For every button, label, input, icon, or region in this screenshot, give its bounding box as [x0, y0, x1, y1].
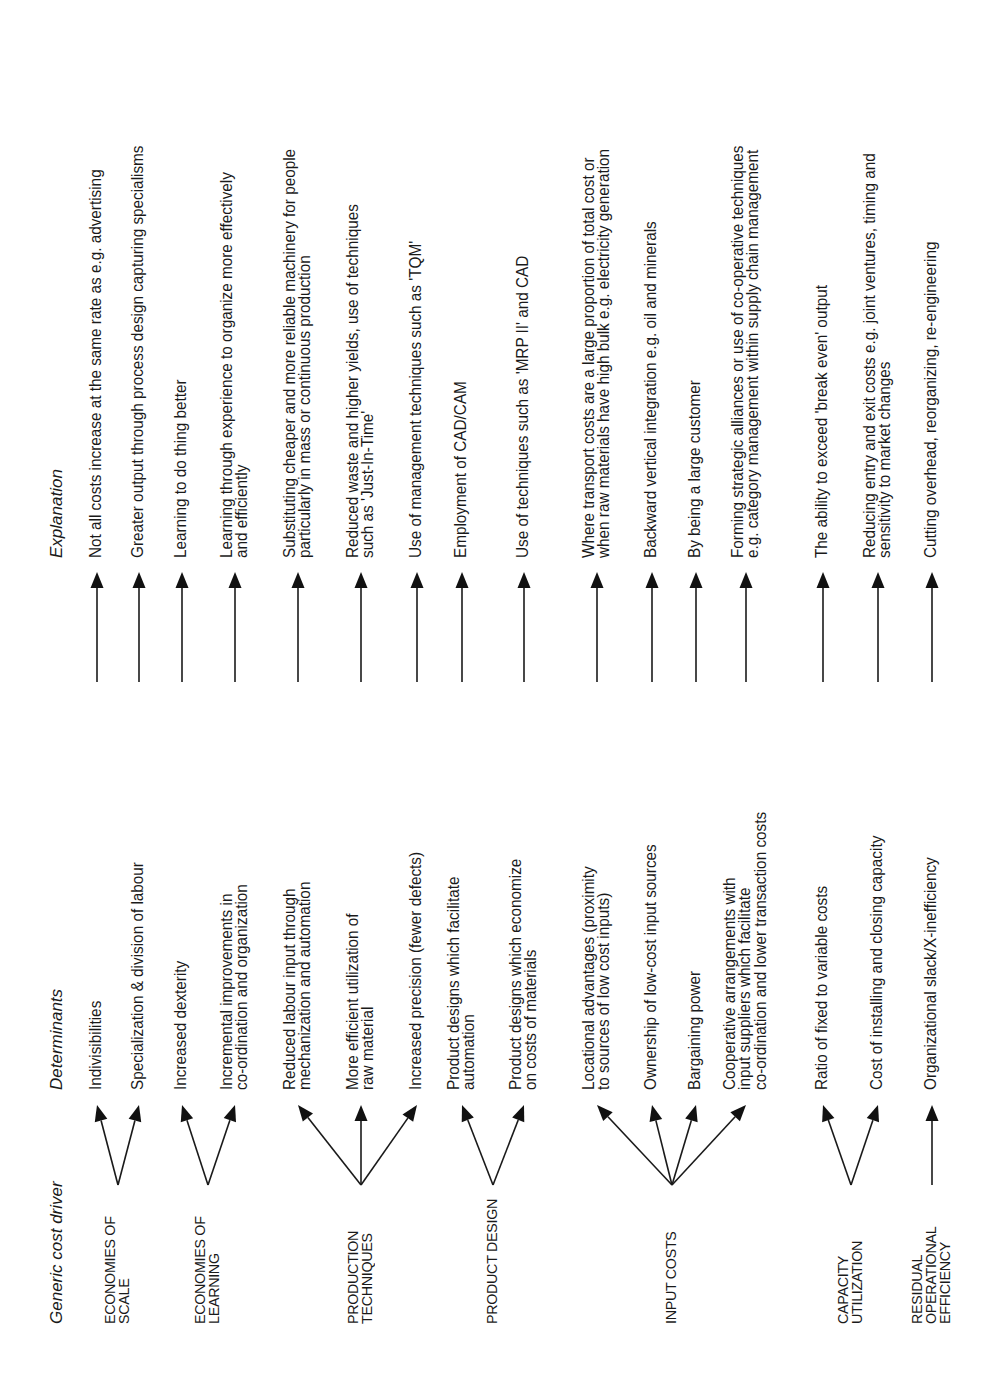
- driver-to-determinant-arrow: [95, 1105, 118, 1185]
- driver-to-determinant-arrow: [355, 1105, 368, 1185]
- arrowhead-icon: [685, 1105, 697, 1122]
- driver-to-determinant-arrow: [926, 1105, 939, 1185]
- driver-to-determinant-arrow-shaft: [118, 1120, 135, 1185]
- driver-to-determinant-arrow-shaft: [468, 1120, 493, 1185]
- arrowhead-icon: [298, 1105, 313, 1122]
- arrows-layer: [0, 0, 982, 1376]
- driver-to-determinant-arrow: [462, 1105, 493, 1185]
- arrowhead-icon: [512, 1105, 524, 1122]
- arrowhead-icon: [355, 572, 368, 588]
- arrowhead-icon: [650, 1105, 663, 1122]
- arrowhead-icon: [872, 572, 885, 588]
- arrowhead-icon: [229, 572, 242, 588]
- determinant-to-explanation-arrow: [411, 572, 424, 682]
- arrowhead-icon: [867, 1105, 879, 1122]
- arrowhead-icon: [456, 572, 469, 588]
- driver-to-determinant-arrow: [493, 1105, 524, 1185]
- arrowhead-icon: [181, 1105, 193, 1122]
- determinant-to-explanation-arrow: [690, 572, 703, 682]
- arrowhead-icon: [133, 572, 146, 588]
- arrowhead-icon: [176, 572, 189, 588]
- determinant-to-explanation-arrow: [456, 572, 469, 682]
- arrowhead-icon: [224, 1105, 236, 1122]
- driver-to-determinant-arrow-shaft: [361, 1118, 408, 1185]
- driver-to-determinant-arrow: [118, 1105, 141, 1185]
- determinant-to-explanation-arrow: [646, 572, 659, 682]
- arrowhead-icon: [690, 572, 703, 588]
- arrowhead-icon: [518, 572, 531, 588]
- determinant-to-explanation-arrow: [740, 572, 753, 682]
- arrowhead-icon: [402, 1105, 417, 1122]
- driver-to-determinant-arrow-shaft: [828, 1120, 851, 1185]
- arrowhead-icon: [129, 1105, 142, 1122]
- driver-to-determinant-arrow: [298, 1105, 361, 1185]
- determinant-to-explanation-arrow: [176, 572, 189, 682]
- driver-to-determinant-arrow-shaft: [308, 1118, 361, 1185]
- determinant-to-explanation-arrow: [355, 572, 368, 682]
- arrowhead-icon: [926, 572, 939, 588]
- determinant-to-explanation-arrow: [926, 572, 939, 682]
- determinant-to-explanation-arrow: [229, 572, 242, 682]
- driver-to-determinant-arrow-shaft: [493, 1120, 518, 1185]
- arrowhead-icon: [817, 572, 830, 588]
- determinant-to-explanation-arrow: [817, 572, 830, 682]
- driver-to-determinant-arrow-shaft: [608, 1117, 672, 1185]
- driver-to-determinant-arrow: [672, 1105, 698, 1185]
- arrowhead-icon: [926, 1105, 939, 1121]
- driver-to-determinant-arrow: [361, 1105, 417, 1185]
- determinant-to-explanation-arrow: [518, 572, 531, 682]
- driver-to-determinant-arrow-shaft: [187, 1120, 208, 1185]
- arrowhead-icon: [355, 1105, 368, 1121]
- driver-to-determinant-arrow-shaft: [101, 1120, 118, 1185]
- determinant-to-explanation-arrow: [292, 572, 305, 682]
- arrowhead-icon: [292, 572, 305, 588]
- driver-to-determinant-arrow: [181, 1105, 208, 1185]
- arrowhead-icon: [740, 572, 753, 588]
- arrowhead-icon: [462, 1105, 474, 1122]
- determinant-to-explanation-arrow: [591, 572, 604, 682]
- arrowhead-icon: [411, 572, 424, 588]
- determinant-to-explanation-arrow: [91, 572, 104, 682]
- arrowhead-icon: [91, 572, 104, 588]
- determinant-to-explanation-arrow: [133, 572, 146, 682]
- driver-to-determinant-arrow-shaft: [851, 1120, 873, 1185]
- driver-to-determinant-arrow-shaft: [208, 1120, 230, 1185]
- driver-to-determinant-arrow: [822, 1105, 851, 1185]
- arrowhead-icon: [646, 572, 659, 588]
- driver-to-determinant-arrow: [208, 1105, 236, 1185]
- determinant-to-explanation-arrow: [872, 572, 885, 682]
- cost-driver-diagram: Generic cost driver Determinants Explana…: [0, 0, 982, 1376]
- driver-to-determinant-arrow: [851, 1105, 879, 1185]
- arrowhead-icon: [822, 1105, 834, 1122]
- arrowhead-icon: [591, 572, 604, 588]
- arrowhead-icon: [95, 1105, 108, 1122]
- driver-to-determinant-arrow: [672, 1105, 746, 1185]
